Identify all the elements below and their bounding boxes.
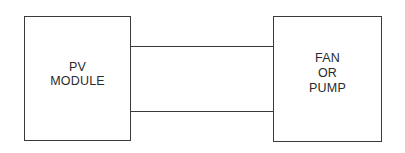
connection-wire-bottom (130, 111, 274, 112)
fan-or-pump-label-line-3: PUMP (274, 81, 381, 96)
connection-wire-top (130, 46, 274, 47)
pv-module-block: PV MODULE (24, 16, 131, 141)
fan-or-pump-block: FAN OR PUMP (273, 16, 382, 142)
fan-or-pump-label-line-1: FAN (274, 51, 381, 66)
fan-or-pump-label-line-2: OR (274, 66, 381, 81)
pv-module-label: PV MODULE (25, 60, 130, 88)
fan-or-pump-label: FAN OR PUMP (274, 51, 381, 96)
pv-module-label-line-2: MODULE (25, 74, 130, 88)
pv-module-label-line-1: PV (25, 60, 130, 74)
